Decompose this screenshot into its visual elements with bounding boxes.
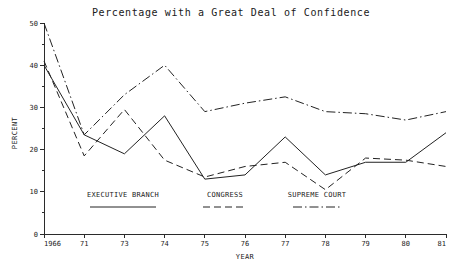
confidence-line-chart: Percentage with a Great Deal of Confiden… xyxy=(0,0,462,263)
legend-label-executive-branch: EXECUTIVE BRANCH xyxy=(87,191,159,199)
x-axis-label: YEAR xyxy=(236,253,255,261)
y-axis-tick-label: 20 xyxy=(30,146,38,154)
legend-label-supreme-court: SUPREME COURT xyxy=(288,191,347,199)
x-axis-tick-label: 80 xyxy=(402,240,410,248)
x-axis-tick-label: 71 xyxy=(80,240,88,248)
chart-title: Percentage with a Great Deal of Confiden… xyxy=(92,7,370,18)
y-axis-tick-label: 30 xyxy=(30,104,38,112)
chart-container: Percentage with a Great Deal of Confiden… xyxy=(0,0,462,263)
chart-background xyxy=(0,0,462,263)
x-axis-tick-label: 81 xyxy=(438,240,446,248)
x-axis-tick-label: 74 xyxy=(160,240,168,248)
x-axis-tick-label: 77 xyxy=(281,240,289,248)
y-axis-label: PERCENT xyxy=(11,116,19,149)
legend-label-congress: CONGRESS xyxy=(207,191,243,199)
y-axis-tick-label: 10 xyxy=(30,188,38,196)
x-axis-tick-label: 1966 xyxy=(44,240,61,248)
x-axis-tick-label: 76 xyxy=(241,240,249,248)
y-axis-tick-label: 0 xyxy=(34,231,38,239)
x-axis-tick-label: 73 xyxy=(120,240,128,248)
x-axis-tick-label: 78 xyxy=(321,240,329,248)
y-axis-tick-label: 50 xyxy=(30,20,38,28)
x-axis-tick-label: 79 xyxy=(361,240,369,248)
x-axis-tick-label: 75 xyxy=(201,240,209,248)
y-axis-tick-label: 40 xyxy=(30,62,38,70)
